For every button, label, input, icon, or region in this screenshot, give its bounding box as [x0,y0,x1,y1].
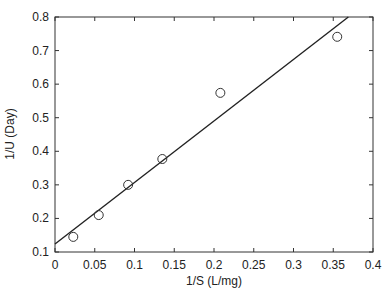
plot-area [55,17,373,252]
y-axis-label: 1/U (Day) [3,108,17,159]
x-tick-label: 0.05 [83,258,107,272]
x-tick-label: 0.1 [126,258,143,272]
data-point [69,232,78,241]
x-tick-label: 0.15 [163,258,187,272]
x-tick-label: 0 [52,258,59,272]
data-point [333,32,342,41]
x-tick-label: 0.3 [285,258,302,272]
y-tick-label: 0.7 [32,44,49,58]
y-tick-label: 0.3 [32,178,49,192]
y-tick-label: 0.1 [32,245,49,259]
x-tick-label: 0.35 [322,258,346,272]
x-tick-label: 0.2 [206,258,223,272]
fit-line [55,17,348,244]
y-tick-label: 0.4 [32,144,49,158]
y-tick-label: 0.8 [32,10,49,24]
y-tick-label: 0.5 [32,111,49,125]
scatter-chart: 00.050.10.150.20.250.30.350.4 0.10.20.30… [0,0,391,300]
x-axis-label: 1/S (L/mg) [186,274,242,288]
data-point [158,155,167,164]
y-tick-label: 0.6 [32,77,49,91]
x-tick-label: 0.4 [365,258,382,272]
x-tick-label: 0.25 [242,258,266,272]
x-axis: 00.050.10.150.20.250.30.350.4 [52,17,382,272]
data-point [216,88,225,97]
data-point [94,211,103,220]
y-tick-label: 0.2 [32,211,49,225]
data-point [124,180,133,189]
